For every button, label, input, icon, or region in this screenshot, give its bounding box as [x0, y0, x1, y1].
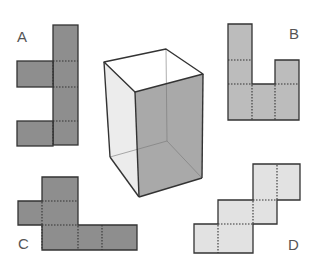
net-d[interactable] [194, 164, 300, 253]
label-a: A [17, 28, 27, 45]
net-c[interactable] [18, 177, 137, 250]
label-d: D [288, 236, 299, 253]
cuboid [104, 49, 203, 197]
label-b: B [289, 25, 299, 42]
label-c: C [18, 235, 29, 252]
diagram-canvas: A B [0, 0, 320, 264]
